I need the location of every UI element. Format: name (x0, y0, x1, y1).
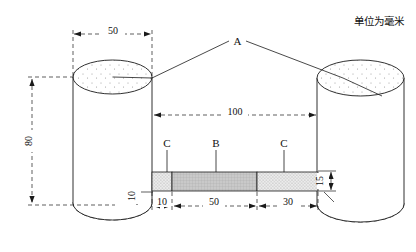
engineering-drawing: A C B C 50 80 100 (0, 0, 416, 252)
leader-a-right-line (246, 41, 343, 78)
bar-segment-c-left (152, 172, 172, 191)
dim-bar-10-text: 10 (157, 196, 167, 207)
dim-offset-10-text: 10 (126, 191, 137, 201)
right-cylinder-top-face (317, 60, 404, 96)
dim-15-text: 15 (314, 176, 325, 186)
dimension-overall-span: 100 (154, 106, 316, 118)
dim-100-text: 100 (228, 106, 243, 117)
dim-bar-50-text: 50 (209, 196, 219, 207)
connecting-bar (152, 172, 318, 191)
unit-note: 单位为毫米 (354, 15, 405, 27)
dim-50-text: 50 (108, 25, 118, 36)
label-c-left: C (163, 137, 170, 149)
dim-bar-30-text: 30 (283, 196, 293, 207)
dim-80-text: 80 (23, 136, 34, 146)
label-a: A (234, 35, 242, 47)
label-b: B (212, 137, 219, 149)
right-cylinder-body-fill (317, 78, 404, 222)
leader-a-left-line (152, 41, 229, 78)
dimension-bar-segments: 10 50 30 (152, 192, 318, 212)
drawing-canvas: A C B C 50 80 100 (0, 0, 416, 252)
label-c-right: C (280, 137, 287, 149)
bar-segment-b (172, 172, 257, 191)
bar-part-leaders: C B C (163, 137, 287, 172)
bar-segment-c-right (257, 172, 318, 191)
